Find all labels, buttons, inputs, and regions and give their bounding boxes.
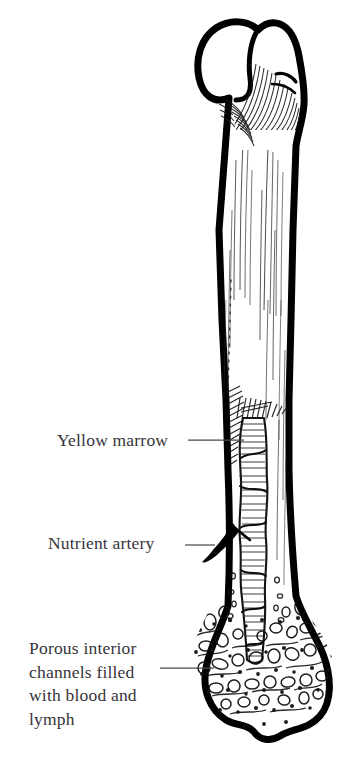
- label-yellow-marrow: Yellow marrow: [57, 429, 168, 453]
- label-nutrient-artery: Nutrient artery: [48, 532, 155, 556]
- bone-outline-group: [194, 22, 334, 740]
- label-porous-interior: Porous interior channels filled with blo…: [29, 637, 137, 731]
